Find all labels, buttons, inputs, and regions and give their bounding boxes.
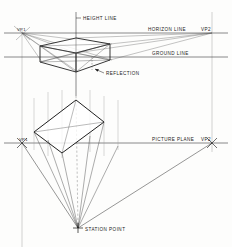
- label-vp2-plan: VP2: [201, 137, 211, 142]
- label-picture-plane: PICTURE PLANE: [152, 137, 194, 142]
- label-vp2-top: VP2: [201, 27, 211, 32]
- label-vp1-top: VP1: [17, 27, 26, 32]
- label-reflection: REFLECTION: [106, 71, 140, 76]
- label-station-point: STATION POINT: [85, 227, 125, 232]
- perspective-diagram: HEIGHT LINE HORIZON LINE VP2 VP1 GROUND …: [0, 0, 232, 247]
- label-height-line: HEIGHT LINE: [83, 16, 117, 21]
- label-ground-line: GROUND LINE: [152, 51, 189, 56]
- label-horizon-line: HORIZON LINE: [148, 27, 186, 32]
- perspective-drawing-canvas: HEIGHT LINE HORIZON LINE VP2 VP1 GROUND …: [0, 0, 232, 247]
- label-vp1-plan: VP1: [19, 137, 28, 142]
